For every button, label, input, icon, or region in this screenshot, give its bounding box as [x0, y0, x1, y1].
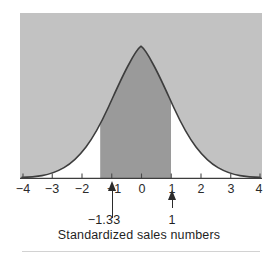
x-tick-label-3: 3	[219, 182, 243, 197]
lower-bound-value-label: −1.33	[74, 213, 134, 227]
x-tick-label--4: −4	[11, 182, 35, 197]
x-tick-label-0: 0	[130, 182, 154, 197]
figure-caption: Standardized sales numbers	[0, 228, 278, 242]
x-tick-label-4: 4	[247, 182, 271, 197]
upper-bound-value-label: 1	[142, 213, 202, 227]
x-tick-label-2: 2	[189, 182, 213, 197]
distribution-chart	[20, 13, 262, 179]
bottom-divider	[22, 251, 260, 252]
upper-bound-arrow-stem	[172, 199, 173, 208]
plot-area	[20, 13, 262, 179]
x-tick-label--3: −3	[40, 182, 64, 197]
x-tick-label--2: −2	[70, 182, 94, 197]
normal-distribution-figure: −4 −3 −2 −1 0 1 2 3 4 −1.33 1 Standardiz…	[0, 0, 278, 257]
